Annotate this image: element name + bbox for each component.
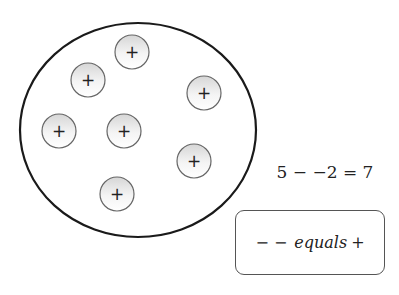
- equation-text: 5 − −2 = 7: [270, 162, 380, 182]
- positive-charge-icon: +: [187, 76, 221, 110]
- positive-charge-icon: +: [107, 114, 141, 148]
- positive-charge-icon: +: [71, 63, 105, 97]
- positive-charges-group: +++++++: [42, 35, 221, 211]
- plus-result: +: [351, 233, 364, 252]
- rule-box: − − equals +: [235, 210, 385, 275]
- positive-charge-icon: +: [177, 144, 211, 178]
- plus-sign: +: [197, 83, 211, 103]
- plus-sign: +: [52, 121, 66, 141]
- double-minus-symbols: − −: [255, 233, 287, 252]
- rule-word: equals: [294, 233, 347, 252]
- plus-sign: +: [117, 121, 131, 141]
- positive-charge-icon: +: [115, 35, 149, 69]
- positive-charge-icon: +: [42, 114, 76, 148]
- positive-charge-icon: +: [100, 177, 134, 211]
- plus-sign: +: [187, 151, 201, 171]
- plus-sign: +: [81, 70, 95, 90]
- plus-sign: +: [110, 184, 124, 204]
- plus-sign: +: [125, 42, 139, 62]
